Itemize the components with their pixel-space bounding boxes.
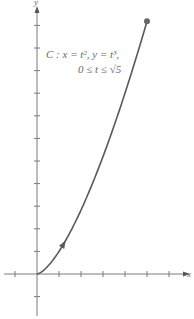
y-axis-arrow-icon [35,6,40,13]
endpoint-marker [144,18,150,24]
direction-arrow-icon [59,241,66,249]
parameter-range-label: 0 ≤ t ≤ √5 [78,63,122,75]
parametric-plot: x y C : x = t², y = t³, 0 ≤ t ≤ √5 [0,0,194,319]
y-axis-label: y [33,0,38,7]
x-axis-label: x [186,269,191,279]
curve-equation-label: C : x = t², y = t³, [46,48,119,60]
